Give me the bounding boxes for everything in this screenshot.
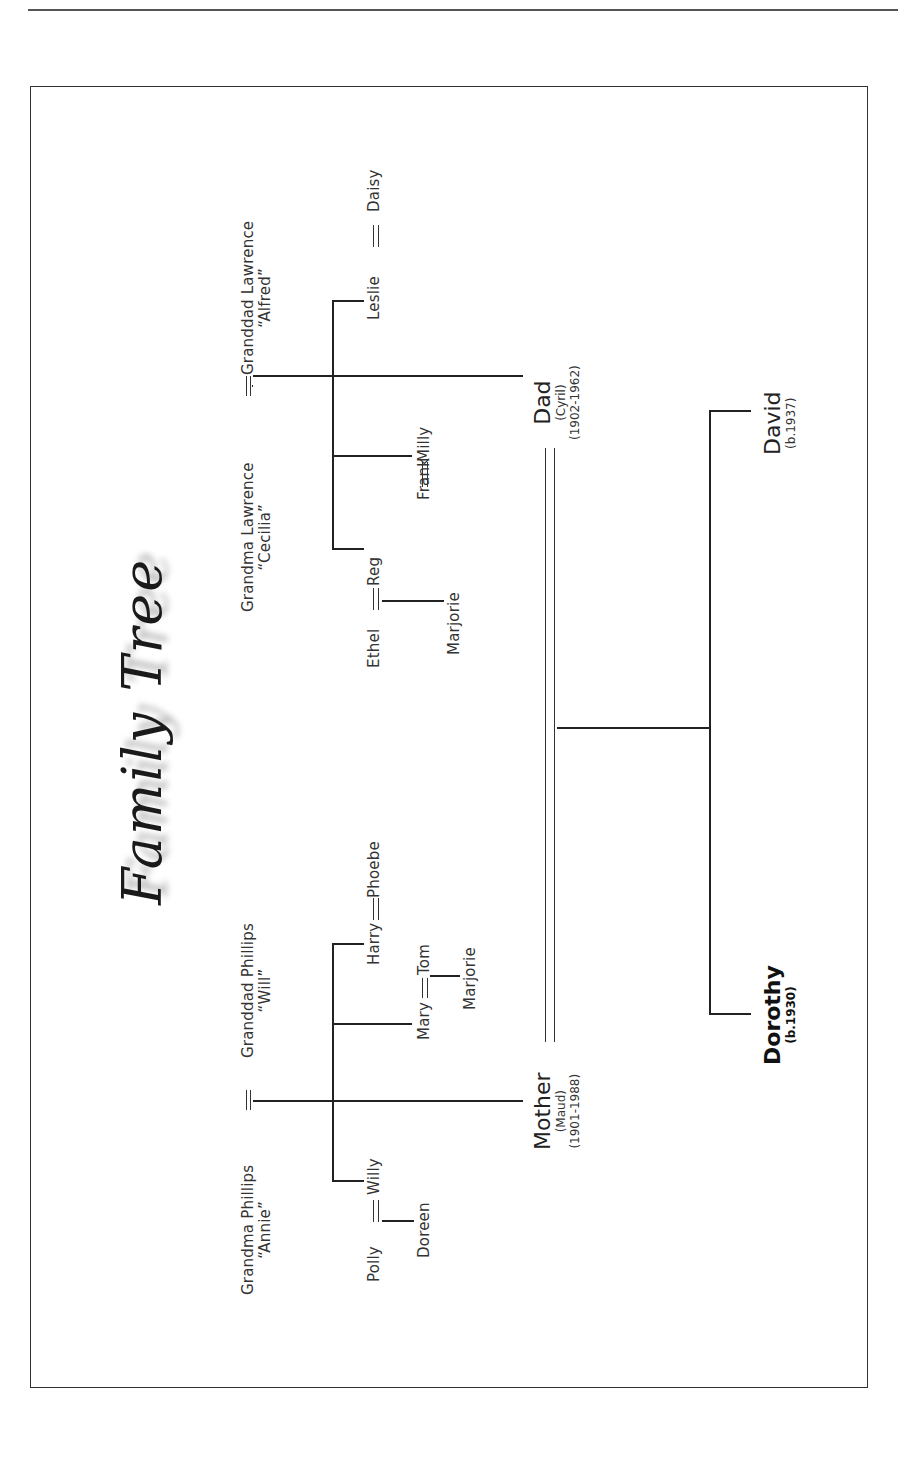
branch-reg <box>332 548 364 550</box>
parents-descent-line <box>557 727 710 729</box>
granddad-phillips-nickname: “Will” <box>257 923 274 1058</box>
grandma-lawrence-label: Grandma Lawrence “Cecilia” <box>240 462 275 612</box>
ethel-label: Ethel <box>366 629 383 668</box>
marriage-line-parents <box>545 448 555 1042</box>
marriage-mark-mary-tom <box>422 978 428 998</box>
dad-name: (Cyril) <box>555 365 569 440</box>
branch-david <box>709 410 751 412</box>
david-dates: (b.1937) <box>785 391 799 455</box>
marjorie-lawrence-label: Marjorie <box>446 592 463 655</box>
dad-label: Dad (Cyril) (1902-1962) <box>530 365 583 440</box>
doreen-label: Doreen <box>416 1202 433 1258</box>
granddad-lawrence-nickname: “Alfred” <box>257 221 274 375</box>
granddad-lawrence-name: Granddad Lawrence <box>240 221 257 375</box>
page-title: Family Tree <box>112 558 174 905</box>
lawrence-drop <box>252 385 253 387</box>
polly-label: Polly <box>366 1246 383 1282</box>
dad-title: Dad <box>530 365 555 440</box>
header-rule <box>28 9 898 11</box>
grandma-lawrence-name: Grandma Lawrence <box>240 462 257 612</box>
grandma-lawrence-nickname: “Cecilia” <box>257 462 274 612</box>
grandma-phillips-label: Grandma Phillips “Annie” <box>240 1165 275 1295</box>
siblings-spine <box>709 410 711 1015</box>
granddad-lawrence-label: Granddad Lawrence “Alfred” <box>240 221 275 375</box>
marriage-mark-ethel-reg <box>373 588 379 610</box>
reg-label: Reg <box>366 557 383 586</box>
mary-label: Mary <box>416 1002 433 1040</box>
daisy-label: Daisy <box>366 169 383 212</box>
marjorie-phillips-label: Marjorie <box>462 947 479 1010</box>
phillips-descent-line <box>253 1100 523 1102</box>
lawrence-children-spine <box>332 300 334 550</box>
marriage-mark-lawrence <box>246 376 251 396</box>
branch-mary <box>332 1023 412 1025</box>
milly-label: Milly <box>416 427 433 462</box>
phillips-children-spine <box>332 943 334 1181</box>
dorothy-label: Dorothy (b.1930) <box>760 965 799 1065</box>
lawrence-descent-line <box>253 375 523 377</box>
marriage-mark-polly-willy <box>373 1200 379 1222</box>
marriage-mark-frank-milly <box>422 462 428 487</box>
dorothy-name: Dorothy <box>760 965 785 1065</box>
branch-dorothy <box>709 1013 751 1015</box>
mother-dates: (1901-1988) <box>569 1072 583 1150</box>
marriage-mark-harry-phoebe <box>373 898 379 920</box>
willy-label: Willy <box>366 1158 383 1195</box>
granddad-phillips-label: Granddad Phillips “Will” <box>240 923 275 1058</box>
david-label: David (b.1937) <box>760 391 799 455</box>
marriage-mark-leslie-daisy <box>373 225 379 247</box>
harry-label: Harry <box>366 923 383 965</box>
mother-name: (Maud) <box>555 1072 569 1150</box>
granddad-phillips-name: Granddad Phillips <box>240 923 257 1058</box>
dad-dates: (1902-1962) <box>569 365 583 440</box>
branch-leslie <box>332 300 364 302</box>
reg-child-line <box>382 600 444 602</box>
grandma-phillips-nickname: “Annie” <box>257 1165 274 1295</box>
branch-harry <box>332 943 364 945</box>
mother-title: Mother <box>530 1072 555 1150</box>
willy-child-line <box>382 1220 414 1222</box>
branch-willy <box>332 1180 364 1182</box>
tom-label: Tom <box>416 944 433 975</box>
dorothy-dates: (b.1930) <box>785 965 799 1065</box>
branch-frank <box>332 455 412 457</box>
marriage-mark-phillips <box>246 1090 251 1110</box>
phoebe-label: Phoebe <box>366 841 383 898</box>
leslie-label: Leslie <box>366 276 383 320</box>
mary-child-line <box>430 975 460 977</box>
grandma-phillips-name: Grandma Phillips <box>240 1165 257 1295</box>
mother-label: Mother (Maud) (1901-1988) <box>530 1072 583 1150</box>
david-name: David <box>760 391 785 455</box>
